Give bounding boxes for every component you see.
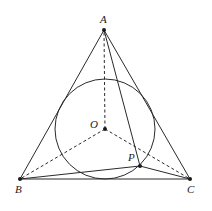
point-P-dot: [138, 164, 142, 168]
segment-PC: [140, 166, 190, 179]
label-O: O: [90, 119, 98, 130]
point-A-dot: [102, 28, 106, 32]
label-B: B: [15, 184, 22, 195]
point-C-dot: [188, 177, 192, 181]
point-O-dot: [103, 127, 107, 131]
label-C: C: [187, 184, 194, 195]
label-A: A: [100, 14, 107, 25]
point-B-dot: [18, 177, 22, 181]
geometry-diagram: A B C O P: [0, 0, 212, 211]
diagram-canvas: [0, 0, 212, 211]
segment-AB: [20, 30, 104, 179]
segment-PA: [104, 30, 140, 166]
dashed-segment-OC: [105, 129, 190, 179]
label-P: P: [128, 152, 135, 163]
